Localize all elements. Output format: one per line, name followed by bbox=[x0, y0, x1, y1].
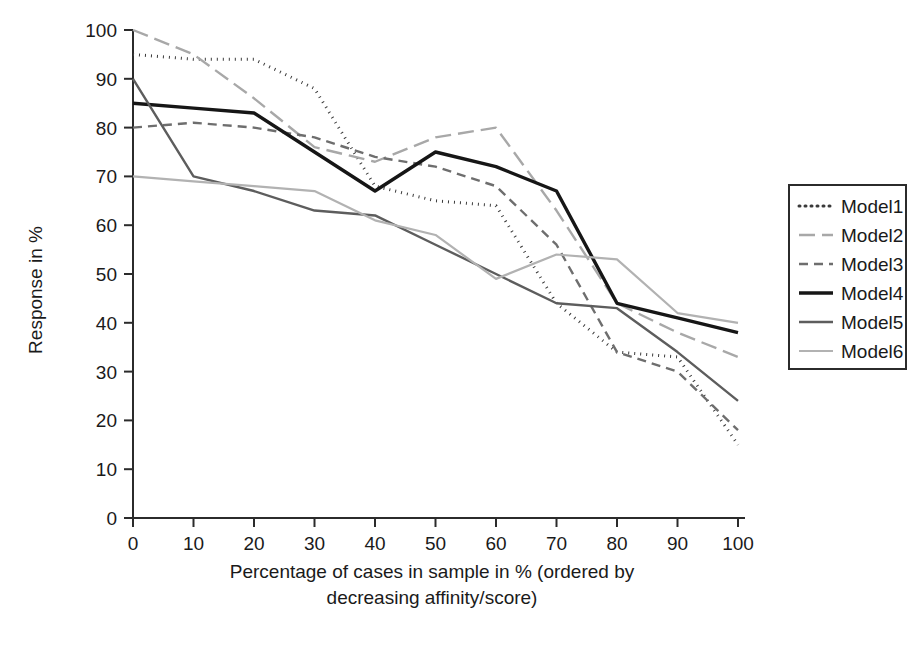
legend-label-model3: Model3 bbox=[841, 254, 903, 275]
x-axis: 0102030405060708090100 bbox=[128, 518, 754, 554]
chart-figure: 0102030405060708090100 01020304050607080… bbox=[0, 0, 917, 645]
x-axis-tick-labels: 0102030405060708090100 bbox=[128, 533, 754, 554]
y-tick-label: 10 bbox=[96, 459, 117, 480]
series-line-model6 bbox=[133, 176, 738, 322]
y-axis-title: Response in % bbox=[25, 226, 46, 354]
y-tick-label: 80 bbox=[96, 118, 117, 139]
y-tick-label: 90 bbox=[96, 69, 117, 90]
series-line-model3 bbox=[133, 123, 738, 430]
y-tick-label: 30 bbox=[96, 362, 117, 383]
x-tick-label: 20 bbox=[243, 533, 264, 554]
chart-legend: Model1Model2Model3Model4Model5Model6 bbox=[789, 185, 906, 369]
x-tick-label: 80 bbox=[606, 533, 627, 554]
y-tick-label: 70 bbox=[96, 166, 117, 187]
y-tick-label: 50 bbox=[96, 264, 117, 285]
legend-label-model4: Model4 bbox=[841, 283, 904, 304]
series-line-model2 bbox=[133, 30, 738, 357]
x-tick-label: 50 bbox=[425, 533, 446, 554]
line-chart: 0102030405060708090100 01020304050607080… bbox=[0, 0, 917, 645]
legend-label-model1: Model1 bbox=[841, 196, 903, 217]
legend-label-model6: Model6 bbox=[841, 341, 903, 362]
legend-label-model5: Model5 bbox=[841, 312, 903, 333]
x-tick-label: 0 bbox=[128, 533, 139, 554]
x-tick-label: 70 bbox=[546, 533, 567, 554]
x-axis-title-line2: decreasing affinity/score) bbox=[327, 587, 538, 608]
y-axis-tick-labels: 0102030405060708090100 bbox=[85, 20, 117, 529]
legend-label-model2: Model2 bbox=[841, 225, 903, 246]
series-line-model1 bbox=[133, 54, 738, 444]
x-tick-label: 90 bbox=[667, 533, 688, 554]
y-tick-label: 20 bbox=[96, 410, 117, 431]
y-tick-label: 40 bbox=[96, 313, 117, 334]
x-tick-label: 10 bbox=[183, 533, 204, 554]
x-tick-label: 40 bbox=[364, 533, 385, 554]
y-tick-label: 0 bbox=[106, 508, 117, 529]
x-tick-label: 30 bbox=[304, 533, 325, 554]
x-tick-label: 100 bbox=[722, 533, 754, 554]
series-line-model5 bbox=[133, 79, 738, 401]
y-tick-label: 100 bbox=[85, 20, 117, 41]
data-series-group bbox=[133, 30, 738, 445]
x-axis-title-line1: Percentage of cases in sample in % (orde… bbox=[230, 561, 635, 582]
x-tick-label: 60 bbox=[485, 533, 506, 554]
y-tick-label: 60 bbox=[96, 215, 117, 236]
y-axis-ticks bbox=[124, 30, 133, 518]
x-axis-ticks bbox=[133, 518, 738, 527]
y-axis: 0102030405060708090100 bbox=[85, 20, 133, 529]
